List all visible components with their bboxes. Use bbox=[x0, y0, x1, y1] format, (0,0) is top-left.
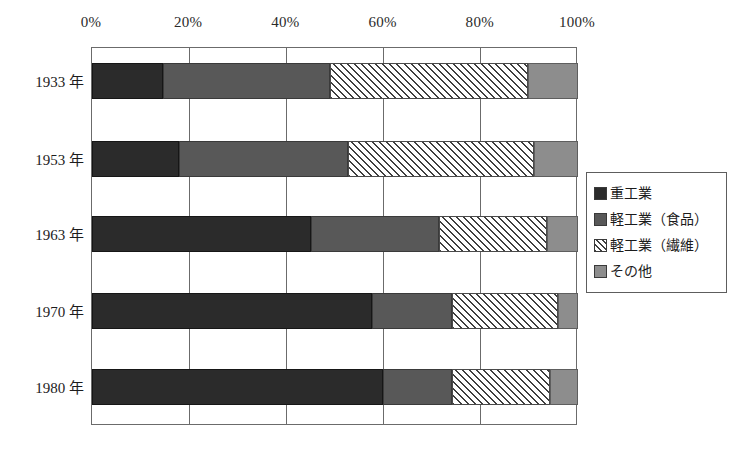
x-tick-label: 60% bbox=[368, 14, 396, 30]
legend-item-label: 重工業 bbox=[610, 186, 652, 201]
y-tick-label: 1953 年 bbox=[6, 148, 84, 169]
bar-segment-food bbox=[163, 63, 330, 99]
bar-segment-other bbox=[528, 63, 578, 99]
bar-segment-other bbox=[534, 141, 578, 177]
bar-segment-textile bbox=[439, 216, 547, 252]
bar-segment-heavy bbox=[92, 216, 311, 252]
legend-item-heavy: 重工業 bbox=[594, 180, 726, 206]
legend-item-label: 軽工業（食品） bbox=[610, 212, 708, 227]
bar-segment-other bbox=[558, 293, 578, 329]
bar-segment-food bbox=[372, 293, 451, 329]
bar-segment-heavy bbox=[92, 141, 179, 177]
bar-row bbox=[92, 63, 578, 99]
bar-segment-food bbox=[383, 369, 452, 405]
bar-segment-heavy bbox=[92, 369, 383, 405]
legend-item-food: 軽工業（食品） bbox=[594, 206, 726, 232]
bar-segment-textile bbox=[452, 293, 558, 329]
legend-item-label: その他 bbox=[610, 264, 652, 279]
y-tick-label: 1970 年 bbox=[6, 300, 84, 321]
bar-segment-textile bbox=[452, 369, 551, 405]
legend-swatch-icon bbox=[594, 239, 607, 252]
bar-row bbox=[92, 369, 578, 405]
legend-box: 重工業軽工業（食品）軽工業（繊維）その他 bbox=[586, 172, 727, 293]
legend-item-other: その他 bbox=[594, 258, 726, 284]
y-tick-label: 1963 年 bbox=[6, 223, 84, 244]
legend-swatch-icon bbox=[594, 187, 607, 200]
x-tick-label: 100% bbox=[559, 14, 595, 30]
x-tick-label: 80% bbox=[466, 14, 494, 30]
y-tick-label: 1933 年 bbox=[6, 70, 84, 91]
bar-segment-textile bbox=[348, 141, 534, 177]
bar-segment-textile bbox=[330, 63, 528, 99]
bar-segment-other bbox=[547, 216, 578, 252]
x-tick-label: 40% bbox=[271, 14, 299, 30]
bar-row bbox=[92, 141, 578, 177]
y-tick-label: 1980 年 bbox=[6, 376, 84, 397]
plot-area bbox=[91, 47, 577, 425]
x-tick-label: 20% bbox=[174, 14, 202, 30]
bar-row bbox=[92, 293, 578, 329]
bar-segment-food bbox=[179, 141, 349, 177]
legend-swatch-icon bbox=[594, 213, 607, 226]
x-tick-label: 0% bbox=[81, 14, 102, 30]
legend-item-textile: 軽工業（繊維） bbox=[594, 232, 726, 258]
legend-swatch-icon bbox=[594, 265, 607, 278]
bar-segment-food bbox=[311, 216, 439, 252]
stacked-bar-chart: 0%20%40%60%80%100% 1933 年1953 年1963 年197… bbox=[0, 0, 748, 451]
bar-segment-heavy bbox=[92, 63, 163, 99]
bar-segment-other bbox=[550, 369, 578, 405]
bar-segment-heavy bbox=[92, 293, 372, 329]
legend-item-label: 軽工業（繊維） bbox=[610, 238, 708, 253]
bar-row bbox=[92, 216, 578, 252]
